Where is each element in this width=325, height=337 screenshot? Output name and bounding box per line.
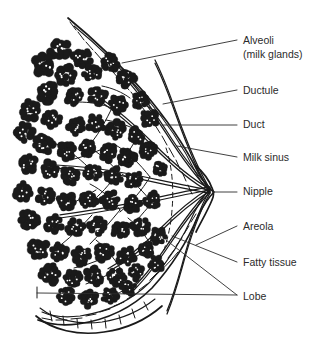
alveolus-lobule [79,222,87,230]
alveolus-lumen [111,200,113,202]
alveolus-lumen [84,203,86,205]
alveolus-lumen [106,248,108,250]
alveolus-lumen [53,117,55,119]
alveolus-lumen [83,58,85,60]
alveolus-lobule [115,196,121,202]
alveolus-lumen [99,247,101,249]
alveolus-lobule [28,127,36,135]
alveolus-lobule [132,136,137,141]
alveolus-lumen [45,191,47,193]
alveolus-lumen [89,195,91,197]
alveolus-lumen [152,198,154,200]
alveolus-lumen [23,164,25,166]
alveolus-lobule [77,91,84,98]
alveolus-lumen [140,273,142,275]
alveolus-lobule [56,294,61,299]
alveolus-lumen [40,248,42,250]
alveolus-lumen [67,202,69,204]
alveolus-lumen [33,245,35,247]
alveolus-lumen [71,176,73,178]
alveolus-lumen [65,301,67,303]
alveolus-lumen [135,223,137,225]
alveolus-lobule [126,285,130,289]
alveolus-lobule [25,161,30,166]
alveolus-lumen [60,75,62,77]
alveolus-lumen [140,102,142,104]
alveolus-lobule [109,268,115,274]
alveolus-lumen [73,99,75,101]
alveolus-lobule [151,144,158,151]
alveolus-lobule [81,71,87,77]
alveolus-lumen [117,129,119,131]
alveolus-lumen [52,114,54,116]
alveolus-lumen [30,163,32,165]
alveolus-lumen [81,252,83,254]
alveolus-lumen [21,190,23,192]
alveolus-lumen [75,94,77,96]
alveolus-lumen [105,57,107,59]
alveolus-lumen [77,93,79,95]
label-alveoli: (milk glands) [243,48,303,60]
alveolus-lumen [130,176,132,178]
alveolus [111,221,130,238]
alveolus-lumen [69,279,71,281]
alveolus-lumen [47,274,49,276]
alveolus-lumen [108,299,110,301]
alveolus-lumen [32,217,34,219]
alveolus-lobule [96,67,102,73]
alveolus-lumen [125,284,127,286]
alveolus-lumen [75,55,77,57]
alveolus-lumen [133,271,135,273]
alveolus-lumen [142,228,144,230]
diagram-page: Alveoli(milk glands)DuctuleDuctMilk sinu… [0,0,325,337]
alveolus [31,52,54,77]
alveolus-lobule [70,195,75,200]
alveolus-lobule [53,270,61,278]
alveolus-lumen [26,108,28,110]
alveolus-lumen [107,198,109,200]
alveolus [124,171,143,188]
alveolus-lumen [127,261,129,263]
alveolus-lumen [22,195,24,197]
alveolus-lumen [95,172,97,174]
alveolus-lumen [89,70,91,72]
alveolus-lumen [129,178,131,180]
alveolus-lumen [141,96,143,98]
alveolus-lumen [90,145,92,147]
alveolus-lobule [142,102,147,107]
alveolus-lumen [42,251,44,253]
alveolus-lumen [97,276,99,278]
alveolus-lobule [108,246,114,252]
alveolus-lumen [111,172,113,174]
alveolus-lumen [120,257,122,259]
alveolus-lobule [85,124,92,131]
alveolus-lumen [154,262,156,264]
label-fatty-tissue: Fatty tissue [243,256,297,268]
alveolus-lumen [32,107,34,109]
alveolus-lobule [131,152,139,160]
alveolus-lobule [129,252,135,258]
alveolus-lobule [70,217,77,224]
alveolus-lobule [111,190,118,197]
alveolus-lumen [120,279,122,281]
alveolus-lumen [59,73,61,75]
alveolus-lumen [112,203,114,205]
alveolus-lobule [132,283,137,288]
alveolus-lumen [41,137,43,139]
alveolus-lumen [91,279,93,281]
alveolus-lumen [84,252,86,254]
alveolus-lumen [66,151,68,153]
alveolus-lumen [45,170,47,172]
alveolus-lobule [102,90,109,97]
alveolus-lumen [56,45,58,47]
alveolus-lumen [113,274,115,276]
alveolus-lumen [133,131,135,133]
alveolus-lobule [87,294,92,299]
alveolus-lumen [22,129,24,131]
alveolus-lumen [51,122,53,124]
alveolus-lobule [113,165,120,172]
alveolus-lumen [101,95,103,97]
alveolus-lumen [130,183,132,185]
alveolus-lumen [116,131,118,133]
alveolus-lumen [77,57,79,59]
